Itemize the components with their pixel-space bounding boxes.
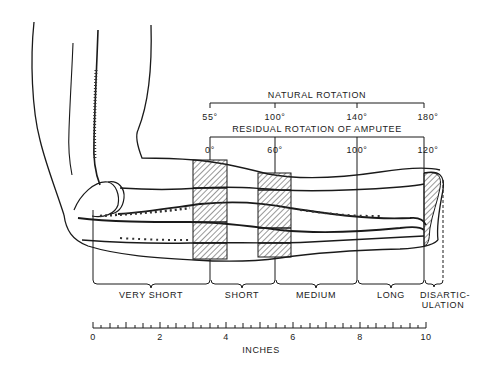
natural-rotation-tick-label: 140° xyxy=(346,112,367,122)
level-label-long: LONG xyxy=(377,290,405,300)
scale-label: 10 xyxy=(420,332,431,342)
natural-rotation-tick-label: 100° xyxy=(264,112,285,122)
scale-unit-label: INCHES xyxy=(242,345,280,355)
inches-scale: 0 2 4 6 8 10 INCHES xyxy=(90,322,431,355)
level-label-disarticulation-line2: ULATION xyxy=(422,300,465,310)
level-label-very-short: VERY SHORT xyxy=(119,290,183,300)
hatched-zone-medium xyxy=(258,173,291,257)
natural-rotation-tick-label: 55° xyxy=(202,112,217,122)
residual-rotation-title: RESIDUAL ROTATION OF AMPUTEE xyxy=(232,124,402,134)
hatched-zones xyxy=(193,160,291,259)
residual-rotation-scale: RESIDUAL ROTATION OF AMPUTEE 0° 60° 100°… xyxy=(205,124,438,155)
hatched-zone-short xyxy=(193,160,227,259)
level-label-disarticulation: DISARTIC- xyxy=(420,290,470,300)
arm-illustration xyxy=(32,22,443,261)
forearm-amputation-diagram: NATURAL ROTATION 55° 100° 140° 180° RESI… xyxy=(0,0,485,369)
residual-rotation-tick-label: 100° xyxy=(346,145,367,155)
level-braces xyxy=(93,280,443,288)
natural-rotation-scale: NATURAL ROTATION 55° 100° 140° 180° xyxy=(202,90,438,122)
residual-rotation-tick-label: 60° xyxy=(267,145,282,155)
natural-rotation-title: NATURAL ROTATION xyxy=(268,90,366,100)
scale-label: 4 xyxy=(223,332,229,342)
residual-rotation-tick-label: 120° xyxy=(417,145,438,155)
scale-label: 8 xyxy=(357,332,363,342)
level-labels: VERY SHORT SHORT MEDIUM LONG DISARTIC- U… xyxy=(119,290,470,310)
scale-label: 0 xyxy=(90,332,96,342)
level-label-short: SHORT xyxy=(225,290,259,300)
natural-rotation-tick-label: 180° xyxy=(417,112,438,122)
scale-label: 2 xyxy=(157,332,163,342)
residual-rotation-tick-label: 0° xyxy=(205,145,215,155)
scale-label: 6 xyxy=(290,332,296,342)
level-label-medium: MEDIUM xyxy=(296,290,336,300)
